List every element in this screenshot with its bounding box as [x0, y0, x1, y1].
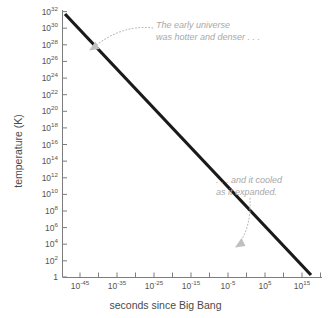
- x-axis-title: seconds since Big Bang: [0, 299, 331, 311]
- y-axis-ticks: [63, 12, 68, 277]
- y-tick-label: 102: [26, 256, 58, 266]
- y-tick-label: 1020: [26, 106, 58, 116]
- x-axis-ticks: [80, 273, 321, 278]
- y-tick-label: 1030: [26, 23, 58, 33]
- y-tick-label: 1: [26, 272, 58, 282]
- y-tick-label: 1018: [26, 123, 58, 133]
- x-tick-label: 105: [259, 281, 272, 291]
- annotation-early-line2: was hotter and denser . . .: [156, 32, 260, 44]
- y-tick-label: 1010: [26, 189, 58, 199]
- axis-lines: [63, 10, 323, 278]
- y-tick-label: 1012: [26, 173, 58, 183]
- y-tick-label: 1016: [26, 140, 58, 150]
- annotation-cooled-line1: . . . and it cooled: [216, 175, 282, 187]
- y-tick-label: 1028: [26, 40, 58, 50]
- y-tick-label: 106: [26, 223, 58, 233]
- y-tick-label: 1022: [26, 90, 58, 100]
- y-tick-label: 1032: [26, 7, 58, 17]
- data-series-temperature: [65, 14, 311, 275]
- annotation-early-universe: The early universe was hotter and denser…: [156, 20, 260, 43]
- y-tick-label: 1026: [26, 56, 58, 66]
- annotation-leader-early: [89, 27, 153, 50]
- y-tick-label: 108: [26, 206, 58, 216]
- x-tick-label: 10-45: [71, 281, 89, 291]
- x-tick-label: 10-25: [145, 281, 163, 291]
- y-axis-title: temperature (K): [12, 81, 24, 221]
- x-tick-label: 1015: [294, 281, 310, 291]
- chart-figure: 1032 1030 1028 1026 1024 1022 1020 1018 …: [0, 0, 331, 318]
- annotation-cooled: . . . and it cooled as it expanded.: [216, 175, 282, 198]
- annotation-cooled-line2: as it expanded.: [216, 187, 282, 199]
- annotation-early-line1: The early universe: [156, 20, 260, 32]
- x-tick-label: 10-15: [182, 281, 200, 291]
- x-tick-label: 10-35: [108, 281, 126, 291]
- annotation-leader-cooled: [235, 198, 250, 248]
- y-tick-label: 1014: [26, 156, 58, 166]
- x-tick-label: 10-5: [221, 281, 236, 291]
- y-tick-label: 104: [26, 239, 58, 249]
- y-tick-label: 1024: [26, 73, 58, 83]
